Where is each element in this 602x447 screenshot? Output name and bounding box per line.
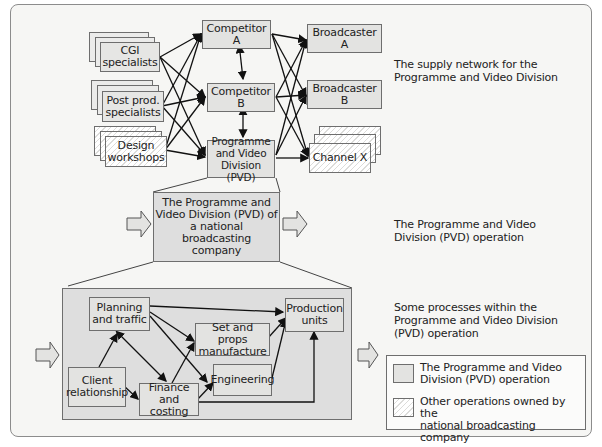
- process-input-arrow-icon: [36, 342, 59, 368]
- set-props-box: Set and propsmanufacture: [195, 323, 270, 356]
- finance-costing-box: Financeand costing: [139, 383, 199, 416]
- broadcaster-a-box: Broadcaster A: [307, 24, 382, 53]
- process-output-arrow-icon: [358, 342, 378, 368]
- supply-network-caption: The supply network for the Programme and…: [394, 58, 558, 84]
- output-arrow-icon: [283, 211, 307, 237]
- legend-item-pvd: The Programme and VideoDivision (PVD) op…: [393, 362, 580, 386]
- pvd-box: Programmeand VideoDivision (PVD): [207, 140, 275, 178]
- planning-traffic-box: Planningand traffic: [89, 297, 150, 331]
- input-arrow-icon: [127, 211, 151, 237]
- hatched-swatch-icon: [393, 398, 414, 417]
- solid-swatch-icon: [393, 364, 414, 383]
- legend-item-other: Other operations owned by thenational br…: [393, 396, 580, 444]
- competitor-b-box: Competitor B: [207, 83, 275, 112]
- operation-caption: The Programme and Video Division (PVD) o…: [394, 218, 536, 244]
- pvd-operation-box: The Programme andVideo Division (PVD) of…: [153, 192, 280, 262]
- client-relationship-box: Clientrelationship: [68, 367, 126, 407]
- processes-caption: Some processes within the Programme and …: [394, 301, 558, 340]
- legend: The Programme and VideoDivision (PVD) op…: [386, 355, 586, 430]
- broadcaster-b-box: Broadcaster B: [307, 80, 382, 109]
- production-units-box: Productionunits: [285, 298, 344, 332]
- competitor-a-box: Competitor A: [202, 20, 271, 49]
- engineering-box: Engineering: [213, 364, 272, 396]
